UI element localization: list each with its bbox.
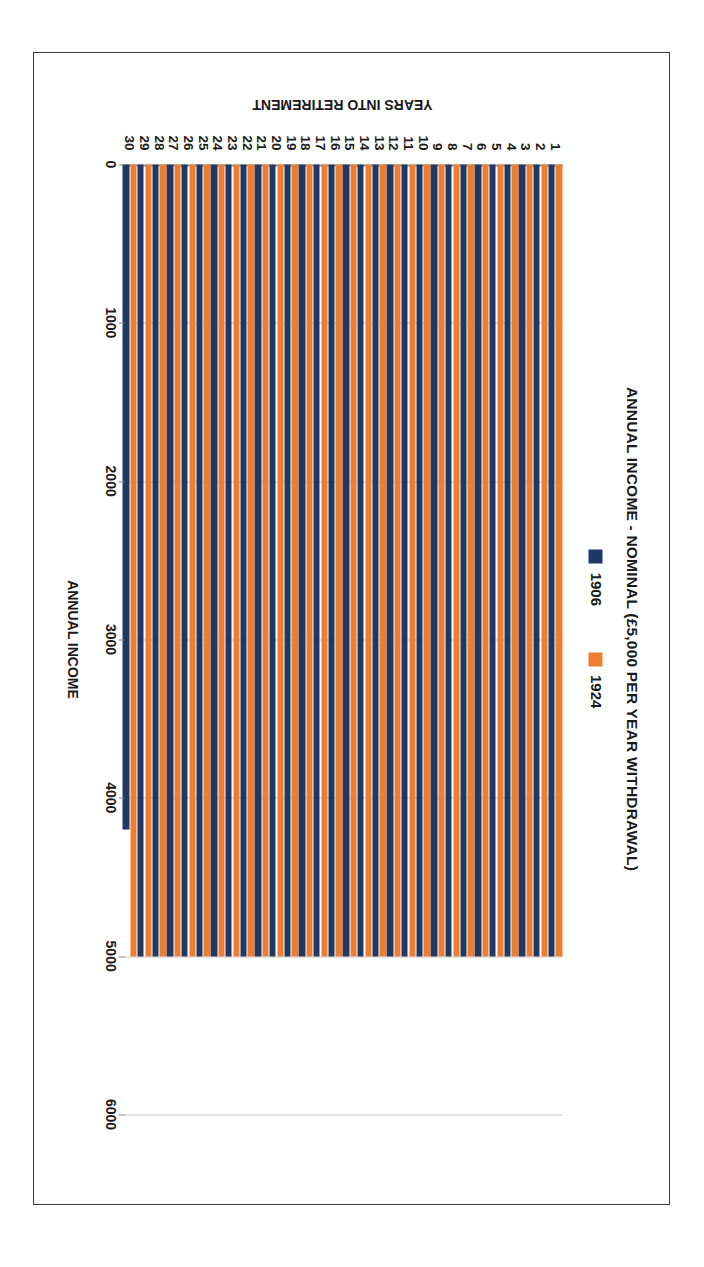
value-tick-mark (118, 322, 124, 323)
bar-1906-year-15 (342, 164, 348, 956)
bar-group (166, 164, 181, 1114)
value-tick-label: 4000 (102, 782, 118, 813)
bar-1924-year-12 (394, 164, 400, 956)
bar-1906-year-14 (357, 164, 363, 956)
bar-1924-year-27 (174, 164, 180, 956)
year-tick-label-10: 10 (415, 135, 430, 150)
bar-1924-year-15 (350, 164, 356, 956)
bar-1924-year-23 (233, 164, 239, 956)
year-tick-label-19: 19 (283, 135, 298, 150)
year-tick-label-1: 1 (547, 142, 562, 150)
bar-group (401, 164, 416, 1114)
year-tick-label-13: 13 (371, 135, 386, 150)
value-tick-label: 1000 (102, 307, 118, 338)
legend-label: 1924 (587, 675, 604, 708)
bar-1906-year-24 (210, 164, 216, 956)
bar-group (151, 164, 166, 1114)
bar-group (533, 164, 548, 1114)
bar-1906-year-27 (166, 164, 172, 956)
value-tick-label: 2000 (102, 465, 118, 496)
value-tick-mark (118, 164, 124, 165)
value-tick-label: 0 (102, 160, 118, 168)
year-tick-label-18: 18 (298, 135, 313, 150)
value-tick-label: 5000 (102, 940, 118, 971)
year-tick-label-4: 4 (503, 142, 518, 150)
bar-group (137, 164, 152, 1114)
bar-1924-year-17 (321, 164, 327, 956)
bar-1906-year-19 (284, 164, 290, 956)
year-tick-label-20: 20 (269, 135, 284, 150)
bar-group (445, 164, 460, 1114)
bar-1924-year-18 (306, 164, 312, 956)
bar-group (239, 164, 254, 1114)
bar-1924-year-7 (467, 164, 473, 956)
bar-group (327, 164, 342, 1114)
bar-1924-year-29 (145, 164, 151, 956)
bar-group (298, 164, 313, 1114)
bar-1906-year-5 (489, 164, 495, 956)
legend-item-1906: 1906 (587, 549, 604, 605)
value-axis-ticks: 0100020003000400050006000 (84, 164, 118, 1114)
legend-item-1924: 1924 (587, 652, 604, 708)
bar-1924-year-2 (541, 164, 547, 956)
bar-1906-year-12 (386, 164, 392, 956)
value-tick-mark (118, 639, 124, 640)
year-tick-label-30: 30 (122, 135, 137, 150)
year-tick-label-15: 15 (342, 135, 357, 150)
bar-1906-year-30 (122, 164, 128, 829)
year-tick-label-6: 6 (474, 142, 489, 150)
bar-group (503, 164, 518, 1114)
bar-group (210, 164, 225, 1114)
year-tick-label-8: 8 (445, 142, 460, 150)
bar-1906-year-29 (137, 164, 143, 956)
bar-1924-year-21 (262, 164, 268, 956)
value-tick-mark (118, 956, 124, 957)
plot-inner (122, 164, 562, 1114)
bar-1924-year-16 (335, 164, 341, 956)
bar-1906-year-26 (181, 164, 187, 956)
value-tick-label: 3000 (102, 623, 118, 654)
bar-group (386, 164, 401, 1114)
bar-group (269, 164, 284, 1114)
bar-group (489, 164, 504, 1114)
bar-1924-year-1 (555, 164, 561, 956)
bar-1906-year-16 (328, 164, 334, 956)
bar-1906-year-9 (430, 164, 436, 956)
bar-group (459, 164, 474, 1114)
bar-1906-year-25 (196, 164, 202, 956)
bar-1906-year-7 (460, 164, 466, 956)
bar-group (225, 164, 240, 1114)
year-tick-label-16: 16 (327, 135, 342, 150)
bar-1906-year-1 (548, 164, 554, 956)
bar-1906-year-8 (445, 164, 451, 956)
year-tick-label-11: 11 (401, 136, 416, 150)
value-tick-mark (118, 481, 124, 482)
value-tick-label: 6000 (102, 1098, 118, 1129)
year-tick-label-2: 2 (533, 142, 548, 150)
bar-group (474, 164, 489, 1114)
year-tick-label-9: 9 (430, 142, 445, 150)
bar-group (371, 164, 386, 1114)
bar-group (313, 164, 328, 1114)
bar-group (357, 164, 372, 1114)
chart-title: ANNUAL INCOME - NOMINAL (£5,000 PER YEAR… (622, 52, 640, 1205)
bar-1906-year-17 (313, 164, 319, 956)
bar-1906-year-28 (152, 164, 158, 956)
bar-1906-year-10 (416, 164, 422, 956)
bar-1924-year-25 (203, 164, 209, 956)
year-tick-label-26: 26 (181, 135, 196, 150)
bar-1924-year-13 (379, 164, 385, 956)
year-tick-label-12: 12 (386, 135, 401, 150)
year-tick-label-24: 24 (210, 135, 225, 150)
bar-1924-year-5 (497, 164, 503, 956)
bar-1906-year-21 (254, 164, 260, 956)
year-tick-label-29: 29 (137, 135, 152, 150)
bar-group (254, 164, 269, 1114)
bar-group (430, 164, 445, 1114)
bar-group (415, 164, 430, 1114)
bar-1924-year-30 (130, 164, 136, 956)
bar-group (518, 164, 533, 1114)
bar-1906-year-13 (372, 164, 378, 956)
chart-frame: ANNUAL INCOME - NOMINAL (£5,000 PER YEAR… (33, 52, 670, 1205)
year-tick-label-27: 27 (166, 135, 181, 150)
